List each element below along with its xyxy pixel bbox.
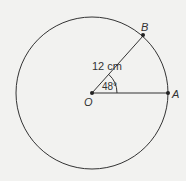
circle-diagram: 12 cm 48° O A B bbox=[0, 0, 186, 181]
angle-label: 48° bbox=[102, 81, 117, 92]
label-o: O bbox=[84, 96, 93, 108]
point-b bbox=[141, 33, 145, 37]
label-b: B bbox=[141, 21, 148, 33]
label-a: A bbox=[171, 88, 179, 100]
point-a bbox=[166, 91, 170, 95]
point-o bbox=[90, 91, 94, 95]
radius-label: 12 cm bbox=[92, 60, 122, 72]
